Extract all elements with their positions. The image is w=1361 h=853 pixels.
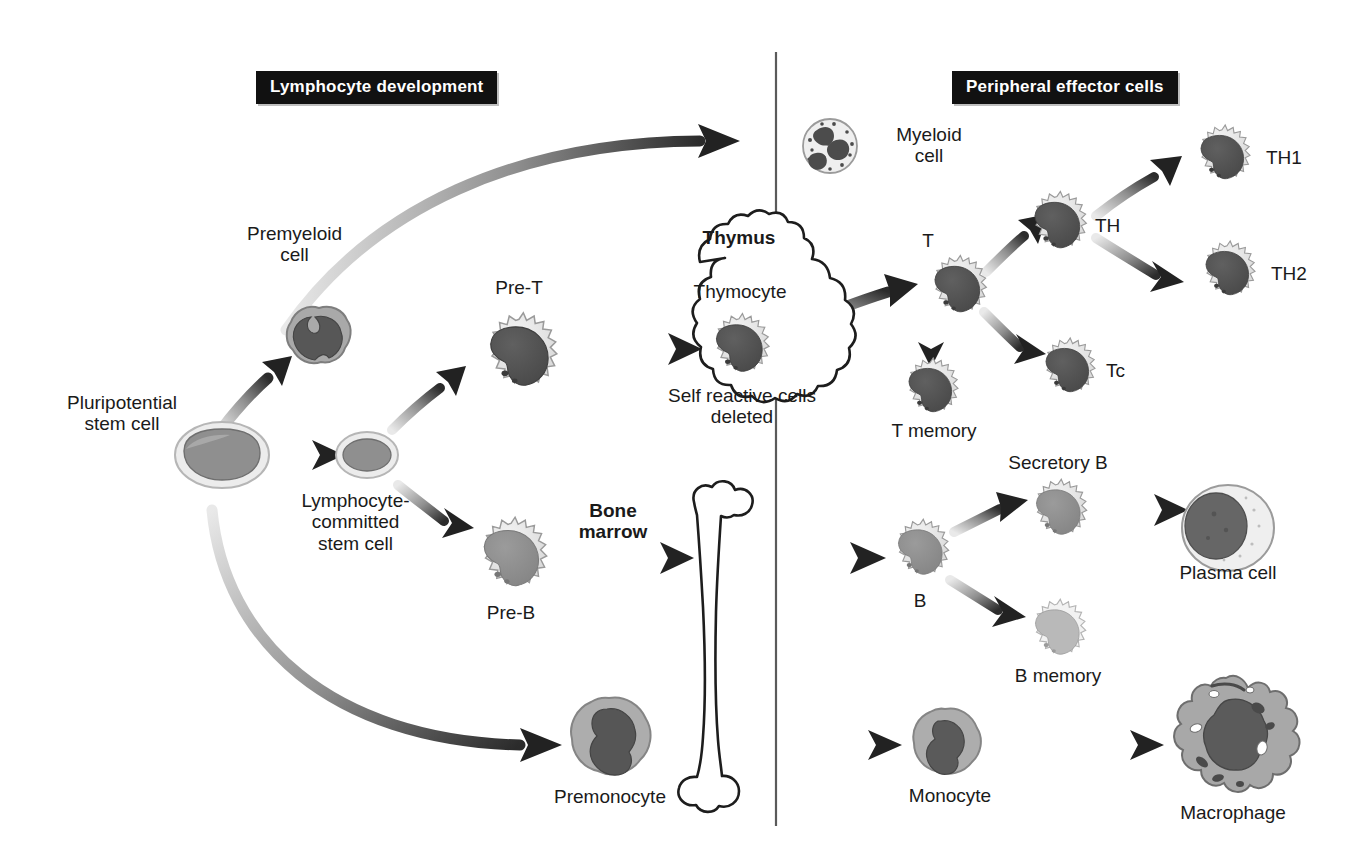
arrow-premonocyte-to-monocyte <box>664 730 902 760</box>
arrow-th-to-th1 <box>1096 156 1182 216</box>
cell-t <box>935 255 986 311</box>
arrow-stem-to-premyeloid <box>219 356 292 432</box>
cell-monocyte <box>913 708 981 774</box>
label-secretory-b: Secretory B <box>978 452 1138 473</box>
arrow-secretory-b-to-plasma-cell <box>1090 494 1188 526</box>
label-b-memory: B memory <box>988 665 1128 686</box>
figure-canvas: Lymphocyte development Peripheral effect… <box>0 0 1361 853</box>
cell-plasma <box>1182 485 1274 571</box>
cell-pre-b <box>484 517 546 585</box>
label-pre-t: Pre-T <box>469 277 569 298</box>
cell-myeloid <box>803 119 857 173</box>
label-pluripotential-stem-cell: Pluripotential stem cell <box>42 392 202 435</box>
cell-b <box>899 519 949 574</box>
label-b-cell: B <box>900 590 940 611</box>
label-th1: TH1 <box>1266 147 1302 168</box>
label-premonocyte: Premonocyte <box>520 786 700 807</box>
label-self-reactive-cells-deleted: Self reactive cells deleted <box>632 385 852 428</box>
label-macrophage: Macrophage <box>1148 802 1318 823</box>
cell-t-memory <box>909 358 958 412</box>
cell-secretory-b <box>1037 479 1087 534</box>
label-thymocyte: Thymocyte <box>670 281 810 302</box>
label-monocyte: Monocyte <box>880 785 1020 806</box>
banner-peripheral-effector-cells: Peripheral effector cells <box>952 71 1178 104</box>
cell-th2 <box>1206 241 1255 295</box>
arrow-lymphocyte-committed-to-pre-t <box>392 366 466 430</box>
cell-th <box>1035 191 1086 247</box>
label-lymphocyte-committed-stem-cell: Lymphocyte- committed stem cell <box>268 490 443 554</box>
cell-tc <box>1046 338 1095 392</box>
arrow-th-to-th2 <box>1096 238 1184 292</box>
arrow-stem-to-lymphocyte-committed <box>268 440 344 470</box>
label-th2: TH2 <box>1271 263 1307 284</box>
label-plasma-cell: Plasma cell <box>1148 562 1308 583</box>
arrow-bone-marrow-to-b-cell <box>714 542 886 574</box>
label-myeloid-cell: Myeloid cell <box>869 124 989 167</box>
arrow-b-to-secretory-b <box>954 492 1028 532</box>
cell-premyeloid-cell <box>287 307 351 364</box>
label-bone-marrow: Bone marrow <box>558 500 668 543</box>
bone-marrow-bone <box>678 481 752 812</box>
label-thymus: Thymus <box>684 227 794 248</box>
cell-macrophage <box>1174 676 1299 792</box>
label-t-cell: T <box>908 230 948 251</box>
label-th: TH <box>1095 215 1120 236</box>
cell-lymphocyte-committed-stem-cell <box>336 432 398 478</box>
arrow-monocyte-to-macrophage <box>990 730 1164 760</box>
label-pre-b: Pre-B <box>461 602 561 623</box>
banner-lymphocyte-development: Lymphocyte development <box>256 71 497 104</box>
label-t-memory: T memory <box>869 420 999 441</box>
arrow-t-to-tc <box>984 312 1046 364</box>
cell-b-memory <box>1036 599 1086 654</box>
label-premyeloid-cell: Premyeloid cell <box>222 223 367 266</box>
arrow-pre-t-to-thymocyte <box>560 333 702 365</box>
cell-th1 <box>1201 125 1250 179</box>
arrow-b-to-b-memory <box>950 580 1026 627</box>
arrow-pre-b-to-bone-marrow <box>556 542 694 574</box>
cell-pre-t <box>491 313 557 386</box>
cell-premonocyte <box>571 697 650 775</box>
label-tc: Tc <box>1106 360 1125 381</box>
